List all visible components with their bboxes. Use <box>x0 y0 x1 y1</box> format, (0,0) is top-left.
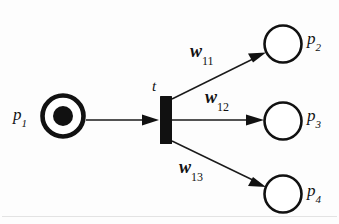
place-circle <box>265 176 302 213</box>
place-p3-label: p3 <box>307 107 321 127</box>
transition-label-base: t <box>152 78 156 94</box>
arrowhead-icon <box>248 53 266 63</box>
place-p1-label: p1 <box>13 106 27 126</box>
place-p2-label: p2 <box>307 30 321 50</box>
place-label-base: p <box>307 181 316 200</box>
transition-t-bar[interactable] <box>160 96 172 144</box>
place-p3[interactable] <box>265 103 302 140</box>
token-dot <box>53 106 73 126</box>
place-circle <box>265 26 302 63</box>
arc-weight-w13-label: w13 <box>179 158 203 179</box>
petri-net-diagram: p1 p2 p3 p4 t w11 w12 w13 <box>0 0 339 224</box>
weight-label-base: w <box>179 157 191 177</box>
weight-label-subscript: 12 <box>217 100 229 114</box>
place-p4[interactable] <box>265 176 302 213</box>
place-label-subscript: 3 <box>316 118 322 130</box>
place-label-subscript: 1 <box>22 117 28 129</box>
place-circle <box>265 103 302 140</box>
place-label-base: p <box>13 105 22 124</box>
weight-label-base: w <box>205 87 217 107</box>
arc-weight-w12-label: w12 <box>205 88 229 109</box>
transition-t-label: t <box>152 78 156 94</box>
place-label-subscript: 4 <box>316 193 322 205</box>
place-label-base: p <box>307 29 316 48</box>
weight-label-base: w <box>190 41 202 61</box>
arc-p1-to-t <box>86 115 159 126</box>
arc-t-to-p3 <box>172 115 264 126</box>
arc-weight-w11-label: w11 <box>190 42 214 63</box>
place-label-subscript: 2 <box>316 41 322 53</box>
place-p1[interactable] <box>43 96 84 137</box>
arrowhead-icon <box>142 115 159 126</box>
place-label-base: p <box>307 106 316 125</box>
arrowhead-icon <box>246 115 264 126</box>
weight-label-subscript: 11 <box>202 54 214 68</box>
place-p4-label: p4 <box>307 182 321 202</box>
weight-label-subscript: 13 <box>191 170 203 184</box>
petri-net-canvas <box>0 0 339 224</box>
place-p2[interactable] <box>265 26 302 63</box>
